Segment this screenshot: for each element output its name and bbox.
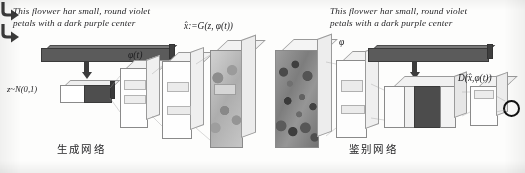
discriminator-section-label: 鉴别网络 bbox=[349, 141, 398, 156]
discriminator-connectors bbox=[0, 0, 525, 173]
gan-architecture-figure: This flovwer har small, round violet pet… bbox=[0, 0, 525, 173]
discriminator-group: This flovwer har small, round violet pet… bbox=[0, 22, 525, 44]
